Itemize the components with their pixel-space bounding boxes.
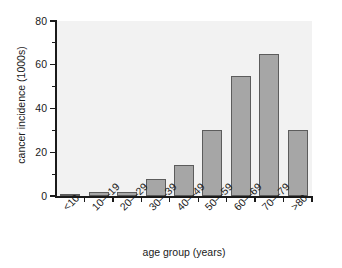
y-tick-minor [52, 174, 55, 175]
x-tick [141, 197, 142, 202]
x-tick [311, 197, 312, 202]
y-tick-minor [52, 130, 55, 131]
bar [231, 76, 251, 196]
y-tick-label: 0 [7, 191, 47, 201]
y-tick-minor [52, 42, 55, 43]
y-tick-label: 80 [7, 16, 47, 26]
y-tick-major [50, 195, 55, 196]
cancer-incidence-bar-chart: cancer incidence (1000s) 020406080 <1010… [0, 0, 342, 268]
x-tick [283, 197, 284, 202]
y-tick-major [50, 64, 55, 65]
y-tick-major [50, 108, 55, 109]
bars-layer [56, 21, 312, 196]
y-tick-label: 40 [7, 103, 47, 113]
y-tick-major [50, 20, 55, 21]
x-axis-title: age group (years) [56, 246, 312, 258]
y-tick-major [50, 152, 55, 153]
y-tick-minor [52, 86, 55, 87]
y-tick-label: 60 [7, 59, 47, 69]
x-tick [226, 197, 227, 202]
bar [288, 130, 308, 196]
x-tick [84, 197, 85, 202]
bar [259, 54, 279, 196]
y-tick-label: 20 [7, 147, 47, 157]
